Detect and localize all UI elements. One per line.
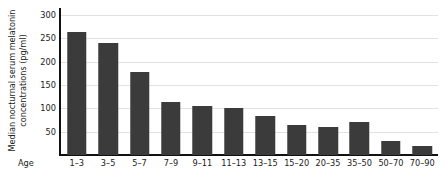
bar: [413, 146, 432, 155]
y-axis-tick-label: 250: [40, 33, 56, 43]
x-axis-tick-label: 13–15: [253, 158, 278, 168]
bar-slot: [124, 8, 155, 155]
y-axis-title: Median nocturnal serum melatonin concent…: [0, 0, 36, 160]
x-axis-tick-label: 1–3: [69, 158, 84, 168]
bar-slot: [218, 8, 249, 155]
bar: [255, 116, 274, 155]
bar-slot: [375, 8, 406, 155]
x-axis-tick-label: 9–11: [193, 158, 213, 168]
y-axis-tick-label: 300: [40, 10, 56, 20]
bar: [67, 32, 86, 155]
x-axis-tick-label: 15–20: [284, 158, 309, 168]
bar: [381, 141, 400, 155]
x-axis-tick-labels: 1–33–55–77–99–1111–1313–1515–2020–3535–5…: [0, 158, 445, 176]
bar: [98, 43, 117, 155]
y-axis-title-line-2: concentrations (pg/ml): [18, 9, 29, 151]
bar: [161, 102, 180, 155]
x-axis-tick-label: 35–50: [347, 158, 372, 168]
y-axis-tick-label: 100: [40, 103, 56, 113]
y-axis-tick-label: 150: [40, 80, 56, 90]
x-axis-tick-label: 7–9: [164, 158, 179, 168]
x-axis-tick-label: 3–5: [101, 158, 116, 168]
plot-area: [61, 8, 438, 155]
bar-slot: [344, 8, 375, 155]
bar-slot: [61, 8, 92, 155]
bar-slot: [187, 8, 218, 155]
x-axis-tick-label: 20–35: [316, 158, 341, 168]
melatonin-bar-chart: Median nocturnal serum melatonin concent…: [0, 0, 445, 185]
bar-slot: [155, 8, 186, 155]
bar-slot: [407, 8, 438, 155]
bar: [287, 125, 306, 155]
bar-slot: [250, 8, 281, 155]
bar: [193, 106, 212, 155]
bar: [130, 72, 149, 155]
y-axis-tick-label: 200: [40, 57, 56, 67]
bar: [350, 122, 369, 155]
bar-slot: [312, 8, 343, 155]
x-axis-tick-label: 11–13: [221, 158, 246, 168]
x-axis-tick-label: 50–70: [378, 158, 403, 168]
bar-series: [61, 8, 438, 155]
x-axis-tick-label: 5–7: [132, 158, 147, 168]
y-axis-tick-label: 50: [46, 127, 56, 137]
x-axis-tick-label: 70–90: [410, 158, 435, 168]
bar: [224, 108, 243, 155]
bar: [318, 127, 337, 155]
bar-slot: [92, 8, 123, 155]
bar-slot: [281, 8, 312, 155]
y-axis-title-line-1: Median nocturnal serum melatonin: [8, 9, 19, 151]
